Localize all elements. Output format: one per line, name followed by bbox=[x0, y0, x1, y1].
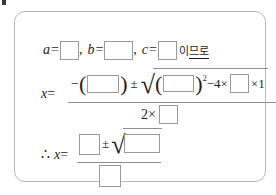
blank-input-c[interactable] bbox=[158, 41, 177, 60]
right-paren-b: ) bbox=[120, 73, 127, 95]
radical-group-1: √ ( ) 2 − 4 × × 1 bbox=[141, 69, 268, 99]
equals-sign-c: = bbox=[149, 42, 157, 58]
radical-group-2: √ bbox=[111, 129, 162, 159]
variable-a-label: a bbox=[43, 42, 50, 58]
variable-c-label: c bbox=[142, 42, 148, 58]
blank-input-discriminant-a[interactable] bbox=[230, 74, 249, 93]
formula-lhs: x= bbox=[41, 86, 55, 102]
korean-since-part1: 이 bbox=[179, 45, 189, 58]
rad-left-paren: ( bbox=[155, 73, 162, 95]
bullet-marker-icon bbox=[2, 0, 6, 5]
answer-panel: a = , b = , c = 이므로 x= − ( ) ± √ ( bbox=[14, 11, 266, 182]
korean-since-part2-underlined: 므로 bbox=[189, 45, 209, 59]
blank-input-result-numerator[interactable] bbox=[79, 134, 100, 155]
comma-1: , bbox=[79, 42, 83, 58]
therefore-symbol: ∴ bbox=[41, 147, 50, 162]
conclusion-equals-sign: = bbox=[60, 147, 68, 162]
conclusion-denominator bbox=[99, 165, 121, 187]
blank-input-result-denominator[interactable] bbox=[99, 165, 121, 187]
coefficient-one: 1 bbox=[258, 76, 265, 92]
korean-since-text: 이므로 bbox=[179, 42, 209, 58]
denominator-times-sign: × bbox=[148, 107, 156, 123]
formula-denominator: 2 × bbox=[141, 105, 178, 124]
exponent-two: 2 bbox=[203, 74, 207, 83]
blank-input-denominator-a[interactable] bbox=[159, 105, 178, 124]
discriminant-minus-sign: − bbox=[207, 76, 214, 92]
equals-sign-a: = bbox=[51, 42, 59, 58]
plus-minus-sign-1: ± bbox=[131, 76, 138, 92]
denominator-two: 2 bbox=[141, 107, 148, 123]
fraction-bar-conclusion bbox=[77, 162, 161, 163]
plus-minus-sign-2: ± bbox=[102, 136, 109, 152]
clipped-header-strip bbox=[0, 0, 276, 7]
radicand-2 bbox=[123, 128, 162, 156]
radicand-1: ( ) 2 − 4 × × 1 bbox=[153, 68, 268, 96]
blank-input-discriminant-b[interactable] bbox=[163, 75, 194, 92]
fraction-bar-main bbox=[68, 102, 276, 103]
blank-input-b[interactable] bbox=[104, 41, 133, 60]
formula-numerator: − ( ) ± √ ( ) 2 − 4 × × 1 bbox=[71, 68, 268, 100]
formula-equals-sign: = bbox=[47, 86, 55, 101]
left-paren-b: ( bbox=[79, 73, 86, 95]
blank-input-numerator-b[interactable] bbox=[87, 75, 119, 93]
blank-input-result-radicand[interactable] bbox=[124, 134, 160, 153]
leading-minus-sign: − bbox=[71, 76, 79, 92]
times-sign-2: × bbox=[251, 76, 258, 92]
conclusion-numerator: ± √ bbox=[79, 128, 162, 160]
blank-input-a[interactable] bbox=[60, 41, 79, 60]
times-sign-1: × bbox=[220, 76, 227, 92]
comma-2: , bbox=[133, 42, 137, 58]
equals-sign-b: = bbox=[95, 42, 103, 58]
coefficients-line: a = , b = , c = 이므로 bbox=[43, 38, 209, 62]
rad-right-paren: ) bbox=[195, 73, 202, 95]
conclusion-line: ∴x= ± √ bbox=[41, 128, 221, 190]
variable-b-label: b bbox=[87, 42, 94, 58]
quadratic-formula-line: x= − ( ) ± √ ( ) 2 − 4 × × 1 bbox=[41, 64, 276, 126]
conclusion-lhs: ∴x= bbox=[41, 146, 68, 163]
